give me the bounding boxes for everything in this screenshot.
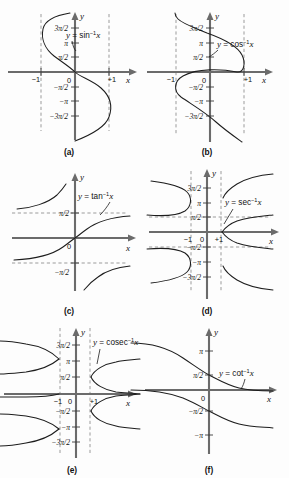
xlabel-plus1: +1 — [244, 75, 252, 84]
y-axis-label: y — [80, 327, 85, 337]
ylabel-3pi-2: 3π/2 — [186, 184, 201, 193]
equation-pointer-d — [224, 209, 233, 224]
curve-arctan-upper — [17, 184, 66, 209]
ylabel-minus-pi: −π — [194, 431, 203, 440]
eq-b-fn: cos — [230, 40, 243, 49]
eq-e-fn: cosec — [106, 338, 127, 347]
eq-c-fn: tan — [91, 192, 103, 201]
equation-label-b: y = cos−1x — [216, 39, 253, 49]
ylabel-minus-pi: −π — [192, 258, 201, 267]
origin-label: 0 — [202, 76, 206, 85]
ylabel-pi: π — [64, 39, 68, 48]
x-axis-label: x — [266, 394, 271, 404]
x-axis-arrow — [271, 229, 279, 236]
ylabel-3pi-2: 3π/2 — [188, 24, 203, 33]
curve-arcsec-l1 — [147, 181, 191, 216]
ylabel-3pi-2: 3π/2 — [55, 341, 70, 350]
ylabel-pi: π — [199, 347, 203, 356]
caption-d: (d) — [202, 306, 213, 316]
y-axis-label: y — [213, 327, 218, 337]
ylabel-minus-3pi-2: −3π/2 — [49, 112, 68, 121]
panel-c-plot: π/2 −π/2 0 y x y = tan−1x (c) — [0, 159, 144, 318]
panel-a-plot: 3π/2 π π/2 −π/2 −π −3π/2 −1 0 +1 y x y =… — [0, 0, 144, 159]
equation-label-f: y = cot−1x — [218, 368, 254, 378]
xlabel-minus1: −1 — [32, 75, 40, 84]
ylabel-pi: π — [199, 39, 203, 48]
curve-arcsec-r4 — [223, 266, 273, 290]
ylabel-minus-pi: −π — [59, 97, 68, 106]
origin-label: 0 — [201, 394, 205, 403]
ylabel-pi-2: π/2 — [58, 53, 68, 62]
caption-b: (b) — [202, 147, 213, 157]
origin-label: 0 — [67, 76, 71, 85]
x-axis-arrow — [269, 387, 277, 394]
caption-c: (c) — [64, 306, 74, 316]
y-axis-label: y — [214, 11, 219, 21]
panel-c: π/2 −π/2 0 y x y = tan−1x (c) — [0, 159, 144, 318]
x-axis-arrow — [129, 69, 137, 76]
curve-arccsc-r3 — [91, 411, 140, 429]
y-axis-label: y — [79, 172, 84, 182]
y-axis-arrow — [206, 328, 213, 336]
xlabel-minus1: −1 — [184, 235, 192, 244]
ylabel-minus-3pi-2: −3π/2 — [184, 112, 203, 121]
eq-d-fn: sec — [238, 198, 251, 207]
curve-arcsec-r3 — [223, 174, 273, 198]
curve-arccsc-l1 — [0, 341, 59, 359]
y-axis-arrow — [72, 173, 79, 181]
xlabel-minus1: −1 — [167, 75, 175, 84]
ylabel-minus-pi: −π — [61, 423, 70, 432]
equation-label-e: y = cosec−1x — [92, 337, 138, 347]
xlabel-plus1: +1 — [215, 235, 223, 244]
caption-f: (f) — [205, 465, 214, 475]
curve-arccsc-r2 — [91, 377, 140, 394]
panel-f: π π/2 −π/2 −π 0 y x y = cot−1x (f) — [145, 318, 289, 477]
panel-e: 3π/2 π π/2 −π/2 −π −3π/2 −1 0 +1 y x y =… — [0, 318, 144, 477]
ylabel-minus-3pi-2: −3π/2 — [182, 273, 201, 282]
y-axis-arrow — [204, 169, 211, 177]
figure-sheet: 3π/2 π π/2 −π/2 −π −3π/2 −1 0 +1 y x y =… — [0, 0, 289, 478]
ylabel-pi-2: π/2 — [193, 53, 203, 62]
origin-label: 0 — [67, 242, 71, 251]
curve-arccsc-l4 — [0, 414, 59, 429]
panel-e-plot: 3π/2 π π/2 −π/2 −π −3π/2 −1 0 +1 y x y =… — [0, 318, 144, 477]
eq-f-arg: x — [249, 368, 254, 378]
curve-arctan-lower — [84, 266, 130, 290]
y-axis-arrow — [207, 12, 214, 20]
ylabel-minus-pi-2: −π/2 — [54, 268, 69, 277]
panel-b-plot: 3π/2 π π/2 −π/2 −π −3π/2 −1 0 +1 y x y =… — [145, 0, 289, 159]
equation-pointer-f — [241, 379, 245, 389]
curve-arccsc-l5 — [0, 429, 59, 446]
curve-arccsc-r1 — [91, 359, 140, 377]
eq-a-arg: x — [95, 30, 100, 40]
eq-d-arg: x — [256, 197, 261, 207]
ylabel-minus-pi-2: −π/2 — [188, 407, 203, 416]
ylabel-minus-pi-2: −π/2 — [188, 83, 203, 92]
xlabel-plus1: +1 — [108, 75, 116, 84]
ylabel-minus-pi-2: −π/2 — [55, 407, 70, 416]
panel-d-plot: 3π/2 π π/2 −π/2 −π −3π/2 −1 0 +1 y x y =… — [145, 159, 289, 318]
ylabel-minus-3pi-2: −3π/2 — [51, 438, 70, 447]
equation-label-c: y = tan−1x — [77, 191, 113, 201]
panel-d: 3π/2 π π/2 −π/2 −π −3π/2 −1 0 +1 y x y =… — [145, 159, 289, 318]
curve-arccsc-l2 — [0, 359, 59, 374]
ylabel-pi-2: π/2 — [193, 371, 203, 380]
ylabel-pi: π — [66, 357, 70, 366]
xlabel-plus1: +1 — [90, 397, 98, 406]
equation-pointer-e — [97, 349, 100, 364]
ylabel-pi-2: π/2 — [60, 373, 70, 382]
panel-b: 3π/2 π π/2 −π/2 −π −3π/2 −1 0 +1 y x y =… — [145, 0, 289, 159]
y-axis-label: y — [211, 168, 216, 178]
x-axis-label: x — [268, 236, 273, 246]
equation-label-a: y = sin−1x — [65, 30, 100, 40]
origin-label: 0 — [68, 397, 72, 406]
curve-arccsc-r4 — [91, 394, 140, 411]
caption-e: (e) — [67, 465, 77, 475]
x-axis-label: x — [125, 243, 130, 253]
y-axis-label: y — [79, 11, 84, 21]
eq-a-fn: sin — [79, 31, 90, 40]
curve-arcsec-r2 — [222, 232, 273, 249]
ylabel-minus-pi-2: −π/2 — [186, 243, 201, 252]
eq-b-arg: x — [248, 39, 253, 49]
x-axis-arrow — [128, 235, 136, 242]
